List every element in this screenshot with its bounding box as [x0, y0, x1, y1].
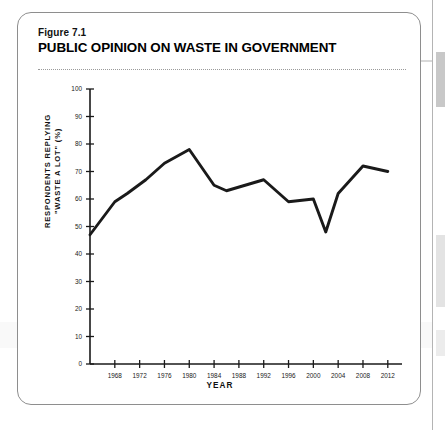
x-axis-label: YEAR	[18, 381, 422, 390]
y-axis-label: RESPONDENTS REPLYING "WASTE A LOT" (%)	[43, 106, 63, 236]
svg-text:30: 30	[75, 278, 83, 285]
figure-card: Figure 7.1 PUBLIC OPINION ON WASTE IN GO…	[17, 12, 421, 405]
svg-text:20: 20	[75, 305, 83, 312]
svg-text:0: 0	[78, 360, 82, 367]
page-edge-block	[436, 235, 445, 307]
page-edge-line	[432, 0, 433, 430]
svg-text:40: 40	[75, 250, 83, 257]
svg-text:70: 70	[75, 168, 83, 175]
svg-text:2004: 2004	[331, 372, 346, 379]
page-edge-block	[436, 330, 445, 356]
line-chart: 0102030405060708090100196819721976198019…	[18, 13, 422, 406]
chart-plot-area: 0102030405060708090100196819721976198019…	[18, 13, 422, 406]
svg-text:90: 90	[75, 113, 83, 120]
y-axis-label-line2: "WASTE A LOT" (%)	[53, 106, 63, 236]
svg-text:1968: 1968	[108, 372, 123, 379]
svg-text:1976: 1976	[157, 372, 172, 379]
y-axis-label-line1: RESPONDENTS REPLYING	[43, 106, 53, 236]
svg-text:2012: 2012	[381, 372, 396, 379]
svg-text:60: 60	[75, 195, 83, 202]
svg-text:1972: 1972	[133, 372, 148, 379]
page-edge-block	[436, 52, 445, 107]
svg-text:100: 100	[71, 85, 82, 92]
svg-text:1988: 1988	[232, 372, 247, 379]
svg-text:1992: 1992	[257, 372, 272, 379]
svg-text:50: 50	[75, 223, 83, 230]
svg-text:2008: 2008	[356, 372, 371, 379]
svg-text:80: 80	[75, 140, 83, 147]
svg-text:10: 10	[75, 333, 83, 340]
svg-text:1996: 1996	[281, 372, 296, 379]
svg-text:1980: 1980	[182, 372, 197, 379]
svg-text:2000: 2000	[306, 372, 321, 379]
svg-text:1984: 1984	[207, 372, 222, 379]
